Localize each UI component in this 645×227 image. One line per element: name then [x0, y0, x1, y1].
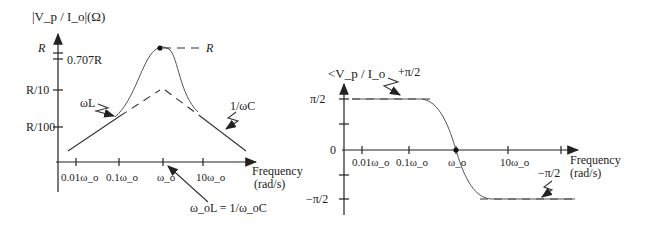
peak-point: [157, 45, 162, 50]
zero-crossing-point: [453, 147, 458, 152]
y-tick-0: 0: [330, 143, 336, 157]
resonance-label: ω_oL = 1/ω_oC: [190, 201, 267, 215]
phase-x-tick-01: 0.1ω_o: [396, 156, 428, 168]
bode-diagram: |V_p / I_o|(Ω) R 0.707R R/10 R/100 R ωL …: [0, 0, 645, 227]
phase-plot: [339, 78, 578, 215]
x-tick-01: 0.1ω_o: [106, 171, 138, 183]
y-tick-r-100: R/100: [26, 120, 55, 134]
plus-pi-2-label: +π/2: [398, 65, 420, 79]
x-tick-1: ω_o: [157, 171, 176, 183]
phase-x-axis-units: (rad/s): [570, 166, 601, 180]
omega-l-label: ωL: [80, 96, 95, 110]
one-over-omega-c-label: 1/ωC: [230, 99, 255, 113]
y-tick-minus-pi-2: −π/2: [306, 192, 328, 206]
phase-y-axis-label: <V_p / I_o: [328, 66, 385, 81]
magnitude-y-axis-label: |V_p / I_o|(Ω): [32, 9, 105, 24]
y-tick-0707r: 0.707R: [67, 53, 102, 67]
peak-label: R: [205, 41, 214, 55]
x-tick-001: 0.01ω_o: [61, 171, 99, 183]
y-tick-r-10: R/10: [26, 83, 49, 97]
phase-x-tick-001: 0.01ω_o: [352, 156, 390, 168]
y-tick-pi-2: π/2: [310, 92, 325, 106]
minus-pi-2-label: −π/2: [538, 166, 560, 180]
magnitude-x-axis-label: Frequency: [252, 164, 303, 178]
x-tick-10: 10ω_o: [196, 171, 226, 183]
y-tick-r: R: [37, 41, 46, 55]
phase-x-tick-1: ω_o: [448, 156, 467, 168]
phase-x-axis-label: Frequency: [570, 153, 621, 167]
phase-x-tick-10: 10ω_o: [500, 156, 530, 168]
magnitude-x-axis-units: (rad/s): [254, 177, 285, 191]
